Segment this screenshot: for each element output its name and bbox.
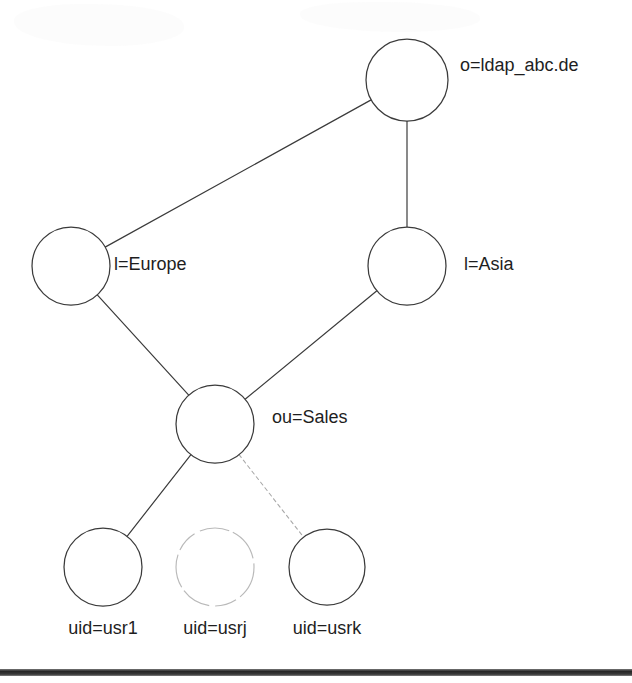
node-usrk[interactable] [289,529,365,605]
ldap-tree-diagram: o=ldap_abc.del=Europel=Asiaou=Salesuid=u… [0,0,632,683]
diagram-canvas: o=ldap_abc.del=Europel=Asiaou=Salesuid=u… [0,0,632,683]
node-label-sales: ou=Sales [272,407,348,427]
node-usrj[interactable] [176,528,254,606]
edge-root-europe [105,100,371,247]
node-root[interactable] [366,39,448,121]
node-label-europe: l=Europe [114,254,187,274]
edge-sales-usr1 [127,455,191,537]
edges-layer [97,100,407,537]
edge-sales-usrk [239,455,304,537]
nodes-layer [32,39,448,606]
node-label-root: o=ldap_abc.de [460,55,579,76]
edge-asia-sales [245,291,377,399]
node-label-usr1: uid=usr1 [68,618,138,638]
node-label-asia: l=Asia [464,254,515,274]
node-europe[interactable] [32,227,110,305]
node-label-usrj: uid=usrj [183,618,247,638]
page-edge-bar [0,669,632,676]
node-asia[interactable] [368,227,446,305]
node-usr1[interactable] [64,528,142,606]
node-sales[interactable] [176,385,254,463]
edge-europe-sales [97,295,188,395]
node-label-usrk: uid=usrk [293,618,363,638]
